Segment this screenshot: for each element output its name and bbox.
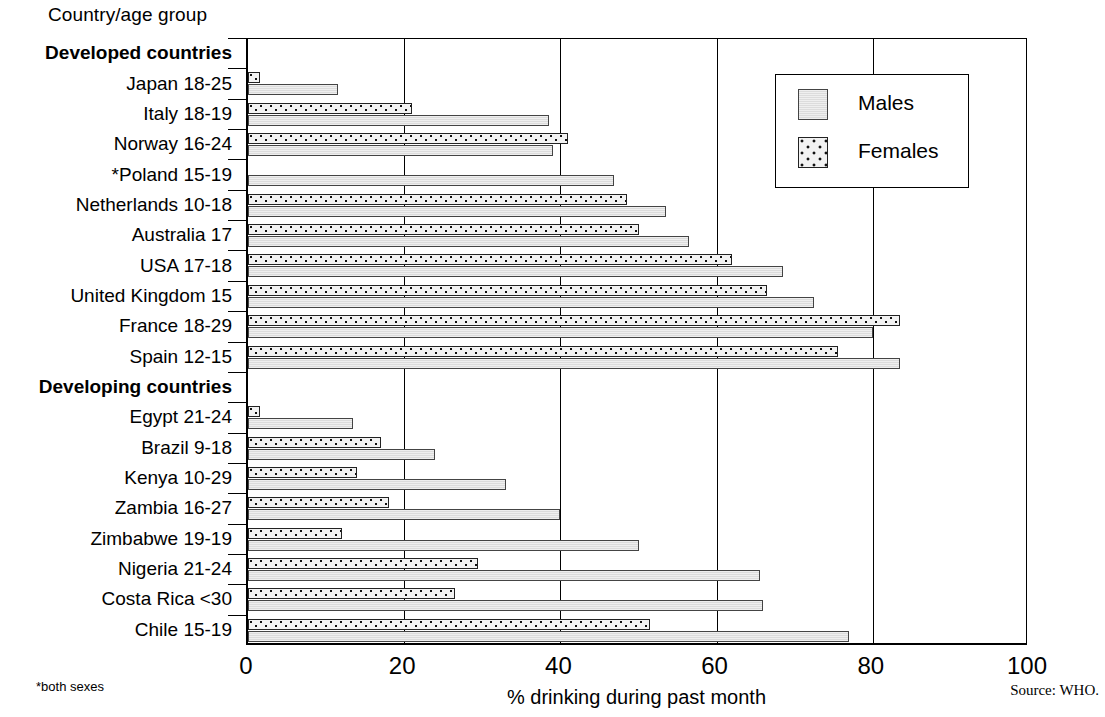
category-tick xyxy=(228,402,246,403)
bar-female xyxy=(248,133,568,144)
footnote-both-sexes: *both sexes xyxy=(36,679,104,694)
x-tick-80: 80 xyxy=(857,652,884,680)
category-label: Italy 18-19 xyxy=(143,104,232,123)
bar-female xyxy=(248,497,389,508)
bar-male xyxy=(248,418,353,429)
category-tick xyxy=(228,463,246,464)
bar-male xyxy=(248,84,338,95)
category-tick xyxy=(228,190,246,191)
gridline-60 xyxy=(717,39,718,643)
category-label: Chile 15-19 xyxy=(135,620,232,639)
males-swatch-icon xyxy=(798,89,828,120)
bar-female xyxy=(248,588,455,599)
chart-legend: Males Females xyxy=(775,74,969,188)
category-tick xyxy=(228,372,246,373)
category-label: Costa Rica <30 xyxy=(102,589,232,608)
bar-female xyxy=(248,406,260,417)
bar-male xyxy=(248,631,849,642)
category-tick xyxy=(228,433,246,434)
column-header-country-age: Country/age group xyxy=(48,4,207,26)
bar-male xyxy=(248,327,873,338)
category-label: Japan 18-25 xyxy=(126,74,232,93)
category-tick xyxy=(228,159,246,160)
bar-male xyxy=(248,570,760,581)
category-label: Australia 17 xyxy=(132,225,232,244)
category-tick xyxy=(228,99,246,100)
bar-male xyxy=(248,175,614,186)
category-label: Netherlands 10-18 xyxy=(76,195,232,214)
category-tick xyxy=(228,554,246,555)
bar-female xyxy=(248,619,650,630)
bar-female xyxy=(248,103,412,114)
category-label: Zambia 16-27 xyxy=(115,498,232,517)
category-tick xyxy=(228,220,246,221)
bar-male xyxy=(248,266,783,277)
category-tick xyxy=(228,615,246,616)
category-tick xyxy=(228,342,246,343)
x-tick-100: 100 xyxy=(1007,652,1047,680)
bar-chart: Country/age group Developed countriesJap… xyxy=(0,0,1105,717)
bar-female xyxy=(248,558,478,569)
category-label: France 18-29 xyxy=(119,316,232,335)
category-label: Brazil 9-18 xyxy=(141,438,232,457)
bar-male xyxy=(248,297,814,308)
legend-label-males: Males xyxy=(858,91,914,115)
source-note: Source: WHO. xyxy=(1010,682,1099,699)
category-tick xyxy=(228,493,246,494)
category-label: United Kingdom 15 xyxy=(70,286,232,305)
category-label: Egypt 21-24 xyxy=(130,407,232,426)
category-label: *Poland 15-19 xyxy=(112,165,232,184)
category-tick xyxy=(228,129,246,130)
group-header-label: Developed countries xyxy=(45,43,232,62)
category-tick xyxy=(228,524,246,525)
bar-male xyxy=(248,600,763,611)
x-tick-0: 0 xyxy=(239,652,252,680)
bar-female xyxy=(248,224,639,235)
x-axis-title: % drinking during past month xyxy=(246,686,1027,709)
category-label: Norway 16-24 xyxy=(114,134,232,153)
category-label: Zimbabwe 19-19 xyxy=(90,529,232,548)
category-label: Kenya 10-29 xyxy=(124,468,232,487)
category-tick xyxy=(228,38,246,39)
bar-female xyxy=(248,346,838,357)
bar-male xyxy=(248,449,435,460)
category-tick xyxy=(228,250,246,251)
bar-male xyxy=(248,115,549,126)
category-tick xyxy=(228,281,246,282)
category-tick xyxy=(228,584,246,585)
bar-male xyxy=(248,236,689,247)
bar-male xyxy=(248,540,639,551)
bar-female xyxy=(248,528,342,539)
bar-female xyxy=(248,315,900,326)
bar-female xyxy=(248,194,627,205)
bar-female xyxy=(248,467,357,478)
category-tick xyxy=(228,68,246,69)
legend-label-females: Females xyxy=(858,139,939,163)
category-label: USA 17-18 xyxy=(140,256,232,275)
bar-female xyxy=(248,285,767,296)
bar-female xyxy=(248,72,260,83)
bar-female xyxy=(248,437,381,448)
gridline-20 xyxy=(404,39,405,643)
category-tick xyxy=(228,311,246,312)
bar-male xyxy=(248,145,553,156)
category-label-column: Developed countriesJapan 18-25Italy 18-1… xyxy=(0,38,240,645)
females-swatch-icon xyxy=(798,137,828,168)
gridline-40 xyxy=(560,39,561,643)
bar-male xyxy=(248,509,560,520)
x-tick-40: 40 xyxy=(545,652,572,680)
bar-male xyxy=(248,358,900,369)
group-header-label: Developing countries xyxy=(39,377,232,396)
bar-female xyxy=(248,254,732,265)
category-label: Spain 12-15 xyxy=(130,347,232,366)
category-label: Nigeria 21-24 xyxy=(118,559,232,578)
bar-male xyxy=(248,479,506,490)
x-tick-20: 20 xyxy=(389,652,416,680)
bar-male xyxy=(248,206,666,217)
x-tick-60: 60 xyxy=(701,652,728,680)
